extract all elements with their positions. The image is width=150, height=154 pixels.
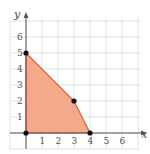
vertex-point — [87, 130, 92, 135]
x-tick-label: 1 — [40, 136, 46, 146]
vertex-point — [71, 98, 76, 103]
y-tick-label: 6 — [17, 32, 23, 42]
y-tick-label: 4 — [17, 64, 23, 74]
x-tick-label: 2 — [56, 136, 62, 146]
x-tick-label: 5 — [104, 136, 110, 146]
y-tick-label: 5 — [17, 48, 23, 58]
x-tick-label: 3 — [72, 136, 78, 146]
y-tick-label: 2 — [17, 96, 23, 106]
x-tick-label: 6 — [120, 136, 126, 146]
x-axis-label: x — [141, 128, 148, 141]
y-axis-label: y — [13, 8, 21, 21]
y-tick-label: 3 — [17, 80, 23, 90]
vertex-point — [23, 130, 28, 135]
vertex-point — [23, 50, 28, 55]
y-tick-label: 1 — [17, 112, 23, 122]
feasible-region-chart: 123456123456 x y — [0, 0, 150, 154]
x-tick-label: 4 — [88, 136, 94, 146]
